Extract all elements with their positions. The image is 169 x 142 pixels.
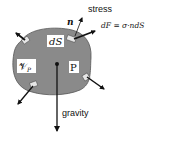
- body-label: P: [70, 62, 77, 73]
- continuum-body-diagram: dS 𝒱P P n stress dF = σ·ndS gravity: [0, 0, 169, 142]
- gravity-label: gravity: [62, 108, 89, 118]
- force-equation: dF = σ·ndS: [101, 21, 144, 30]
- surface-element-label: dS: [49, 36, 62, 47]
- stress-label: stress: [88, 4, 113, 14]
- traction-arrow-right: [87, 77, 104, 89]
- traction-arrow-top-left: [16, 33, 25, 40]
- normal-label: n: [67, 17, 74, 27]
